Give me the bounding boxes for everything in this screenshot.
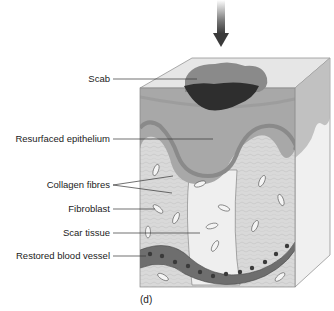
label-resurfaced-epithelium: Resurfaced epithelium	[15, 133, 110, 144]
label-scab: Scab	[88, 73, 110, 84]
label-collagen-fibres: Collagen fibres	[47, 179, 110, 190]
down-arrow-icon	[213, 0, 229, 47]
wound-healing-diagram	[0, 0, 334, 311]
label-restored-blood-vessel: Restored blood vessel	[16, 250, 110, 261]
label-scar-tissue: Scar tissue	[63, 227, 110, 238]
block-front-face	[140, 88, 300, 287]
figure-caption: (d)	[140, 294, 152, 305]
label-fibroblast: Fibroblast	[68, 203, 110, 214]
